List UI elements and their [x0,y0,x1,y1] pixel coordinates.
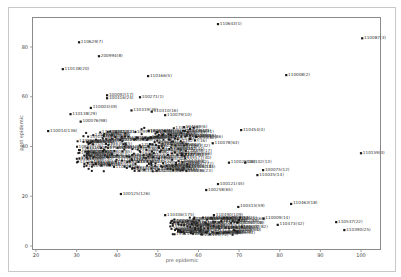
data-point-marker [240,129,242,131]
data-point-marker [277,224,279,226]
svg-text:130923(43): 130923(43) [192,224,217,229]
data-point-label: 110087(3) [364,35,386,40]
svg-text:188944(3): 188944(3) [149,135,171,140]
data-point-marker [139,96,141,98]
data-point-marker [147,75,149,77]
data-point-label: 110078(63) [215,140,240,145]
svg-text:178044(15): 178044(15) [159,129,184,134]
y-tick-label: 80 [22,44,28,50]
data-point-label: 100125(126) [123,191,151,196]
data-point-marker [151,111,153,113]
data-point-label: 100315(59) [240,203,265,208]
data-point-label: 100102(13) [247,159,272,164]
data-point-label: 100076(98) [82,118,107,123]
svg-text:161942(50): 161942(50) [89,156,114,161]
data-point-marker [217,183,219,185]
data-point-label: 200994(8) [101,53,123,58]
x-tick-label: 40 [114,252,120,258]
y-tick-label: 20 [22,193,28,199]
data-point-label: 110003(49) [93,104,118,109]
x-tick-label: 50 [155,252,161,258]
data-point-marker [106,94,108,96]
data-point-marker [213,214,215,216]
x-tick-label: 80 [277,252,283,258]
data-point-marker [181,154,183,156]
data-point-label: 110454(4) [243,127,265,132]
data-point-marker [69,113,71,115]
data-point-marker [285,74,287,76]
data-points: 110643(1)110087(3)110629(7)200994(8)1101… [47,21,386,232]
x-tick-label: 100 [356,252,366,258]
data-point-label: 100121(45) [220,181,245,186]
x-tick-label: 90 [317,252,323,258]
data-point-label: 100416(24) [109,95,134,100]
data-point-marker [262,218,264,220]
x-axis-label: pre epidemic [166,257,199,264]
data-point-marker [205,189,207,191]
data-point-marker [164,114,166,116]
data-point-label: 110014(136) [50,128,78,133]
data-point-label: 110008(2) [288,72,310,77]
data-point-marker [256,174,258,176]
data-point-marker [130,109,132,111]
data-point-label: 110159(3) [363,150,385,155]
data-point-label: 110537(22) [338,219,363,224]
scatter-chart: 2030405060708090100 020406080 124397(40)… [0,0,401,277]
data-point-label: 110035(14) [259,172,284,177]
data-point-marker [343,229,345,231]
svg-text:169634(2): 169634(2) [136,168,158,173]
data-point-label: 100258(65) [208,187,233,192]
x-tick-label: 20 [33,252,39,258]
data-point-label: 110463(18) [293,200,318,205]
data-point-marker [164,214,166,216]
data-point-marker [62,68,64,70]
data-point-marker [106,97,108,99]
data-point-label: 110500(60) [241,216,266,221]
data-point-label: 110490(109) [216,212,244,217]
data-point-marker [47,130,49,132]
data-point-label: 110079(10) [167,112,192,117]
data-point-marker [217,23,219,25]
data-point-marker [120,193,122,195]
data-point-marker [361,37,363,39]
y-tick-label: 60 [22,93,28,99]
data-point-label: 110018(23) [184,152,209,157]
data-point-label: 110390(25) [346,227,371,232]
data-point-marker [98,55,100,57]
x-tick-label: 30 [73,252,79,258]
svg-text:115539(54): 115539(54) [169,166,194,171]
data-point-label: 110406(175) [167,212,195,217]
y-tick-label: 0 [25,243,28,249]
data-point-label: 110138(20) [65,66,90,71]
data-point-marker [360,152,362,154]
data-point-marker [290,203,292,205]
data-point-marker [228,162,230,164]
y-axis-label: post epidemic [18,115,25,151]
svg-text:122802(12): 122802(12) [183,229,208,234]
data-point-label: 100271(1) [142,94,164,99]
data-point-label: 110643(1) [220,21,242,26]
data-point-marker [212,142,214,144]
svg-text:129700(58): 129700(58) [111,162,136,167]
svg-text:191212(86): 191212(86) [198,134,223,139]
x-tick-label: 70 [236,252,242,258]
data-point-marker [244,162,246,164]
data-point-label: 110166(5) [150,73,172,78]
data-point-label: 110009(14) [265,215,290,220]
data-point-marker [90,107,92,109]
svg-text:114439(19): 114439(19) [174,218,199,223]
data-point-marker [78,41,80,43]
data-point-label: 110473(42) [280,221,305,226]
svg-text:107457(76): 107457(76) [173,142,198,147]
data-point-label: 110138(29) [72,111,97,116]
data-point-marker [80,121,82,123]
svg-text:141853(2): 141853(2) [131,154,153,159]
svg-text:169170(76): 169170(76) [218,230,243,235]
data-point-label: 110629(7) [81,39,103,44]
x-axis-ticks: 2030405060708090100 [33,250,366,258]
svg-text:129555(19): 129555(19) [106,131,131,136]
data-point-marker [238,219,240,221]
data-point-marker [335,221,337,223]
data-point-marker [237,206,239,208]
